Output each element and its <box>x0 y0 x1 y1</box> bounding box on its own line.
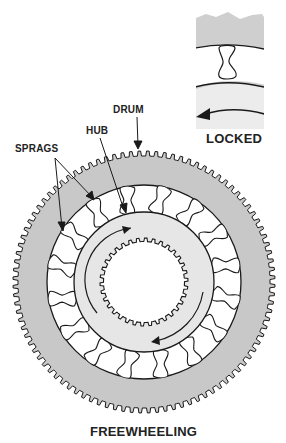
sprags-label: SPRAGS <box>15 143 58 154</box>
sprag-clutch-diagram <box>0 0 286 443</box>
locked-caption: LOCKED <box>206 131 262 146</box>
drum-label: DRUM <box>113 104 144 115</box>
drum-arrowhead <box>134 141 142 149</box>
locked-inset <box>180 0 286 140</box>
freewheeling-assembly <box>13 151 275 413</box>
freewheeling-caption: FREEWHEELING <box>90 424 197 439</box>
hub-label: HUB <box>86 125 108 136</box>
